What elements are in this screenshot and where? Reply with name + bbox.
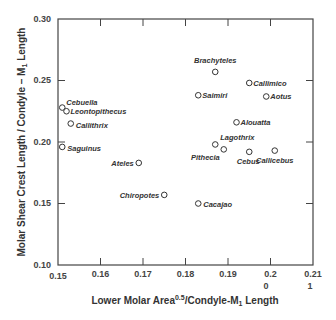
x-axis-title: Lower Molar Area0.5/Condyle-M1 Length <box>91 294 278 307</box>
x-tick-labels: 0.15 0.16 0.17 0.18 0.19 0.2 0.21 <box>49 269 322 281</box>
plot-frame <box>58 19 313 265</box>
data-point-label: Callithrix <box>76 121 109 130</box>
svg-text:0.21: 0.21 <box>304 269 322 279</box>
data-point-label: Callicebus <box>256 156 294 165</box>
y-tick-labels: 0.10 0.15 0.20 0.25 0.30 <box>33 14 51 270</box>
scatter-chart: 0.15 0.16 0.17 0.18 0.19 0.2 0.21 0 1 0.… <box>0 0 336 320</box>
svg-text:0.15: 0.15 <box>33 198 51 208</box>
svg-text:0.15: 0.15 <box>49 271 67 281</box>
data-point-marker <box>212 142 218 148</box>
data-point-marker <box>59 144 65 150</box>
svg-text:0.30: 0.30 <box>33 14 51 24</box>
data-point-label: Alouatta <box>240 118 271 127</box>
data-point-label: Ateles <box>110 159 134 168</box>
svg-text:0.20: 0.20 <box>33 137 51 147</box>
y-axis-title: Molar Shear Crest Length / Condyle – M1 … <box>16 28 28 257</box>
x-ticks-top <box>101 19 271 26</box>
data-point-marker <box>195 92 201 98</box>
data-point-label: Pithecia <box>191 153 220 162</box>
data-point-marker <box>246 80 252 86</box>
svg-text:0.10: 0.10 <box>33 260 51 270</box>
data-point-marker <box>136 160 142 166</box>
data-point-marker <box>64 108 70 114</box>
data-point-marker <box>221 147 227 153</box>
svg-text:0.17: 0.17 <box>134 269 152 279</box>
data-point-label: Leontopithecus <box>71 107 127 116</box>
data-point-label: Callimico <box>253 79 287 88</box>
data-point-label: Lagothrix <box>220 133 255 142</box>
data-point-marker <box>263 94 269 100</box>
data-points: CebuellaLeontopithecusCallithrixSaguinus… <box>59 56 293 209</box>
y-ticks-left <box>58 81 65 204</box>
x-tick-label-extra: 1 <box>307 281 312 291</box>
data-point-label: Saguinus <box>67 144 101 153</box>
data-point-marker <box>212 69 218 75</box>
data-point-label: Saimiri <box>202 91 228 100</box>
x-ticks-bottom <box>101 258 271 265</box>
data-point-label: Aotus <box>269 92 291 101</box>
y-ticks-right <box>306 81 313 204</box>
svg-text:0.18: 0.18 <box>177 269 195 279</box>
data-point-marker <box>68 121 74 127</box>
data-point-label: Cebuella <box>66 98 97 107</box>
svg-text:0.2: 0.2 <box>264 269 277 279</box>
data-point-marker <box>246 149 252 155</box>
data-point-label: Cacajao <box>203 200 232 209</box>
data-point-marker <box>161 192 167 198</box>
data-point-marker <box>272 148 278 154</box>
svg-text:0.16: 0.16 <box>92 269 110 279</box>
svg-text:0.19: 0.19 <box>219 269 237 279</box>
data-point-label: Brachyteles <box>194 56 237 65</box>
data-point-marker <box>195 201 201 207</box>
data-point-marker <box>234 120 240 126</box>
x-tick-label-extra: 0 <box>263 281 268 291</box>
data-point-label: Chiropotes <box>120 191 160 200</box>
svg-text:0.25: 0.25 <box>33 75 51 85</box>
